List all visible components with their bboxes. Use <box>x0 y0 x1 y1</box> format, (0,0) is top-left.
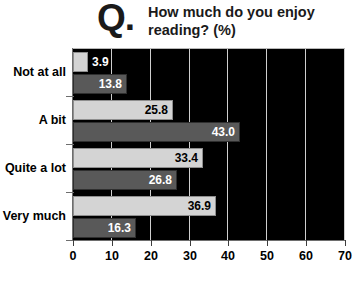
page-title-line-1: How much do you enjoy <box>148 4 315 20</box>
bar-value-label: 36.9 <box>188 199 211 213</box>
x-axis-tick <box>345 240 346 246</box>
page-title-line-2: reading? (%) <box>148 21 363 39</box>
category-axis-tick <box>66 192 74 193</box>
page-title: How much do you enjoy reading? (%) <box>148 3 363 39</box>
x-axis-tick <box>112 240 113 246</box>
category-label: Not at all <box>0 65 66 79</box>
bar-value-label: 13.8 <box>99 77 122 91</box>
category-label: A bit <box>0 113 66 127</box>
x-axis-tick-label: 50 <box>247 249 287 263</box>
x-axis-tick <box>151 240 152 246</box>
x-axis-tick-label: 60 <box>286 249 326 263</box>
bar-value-label: 43.0 <box>212 125 235 139</box>
x-axis-tick-label: 30 <box>170 249 210 263</box>
bar-series-1-0[interactable]: 3.9 <box>73 52 88 72</box>
chart-header: Q. How much do you enjoy reading? (%) <box>0 0 363 46</box>
bar-series-1-1[interactable]: 25.8 <box>73 100 173 120</box>
x-axis-tick-label: 70 <box>325 249 363 263</box>
category-axis-tick <box>66 96 74 97</box>
bar-value-label: 33.4 <box>175 151 198 165</box>
bar-series-1-3[interactable]: 36.9 <box>73 196 216 216</box>
x-axis-tick-label: 20 <box>131 249 171 263</box>
gridline <box>266 49 267 240</box>
gridline <box>227 49 228 240</box>
bar-value-label: 16.3 <box>108 221 131 235</box>
category-axis-tick <box>66 144 74 145</box>
bar-series-2-0[interactable]: 13.8 <box>73 74 127 94</box>
bar-value-label: 3.9 <box>92 55 109 69</box>
x-axis-tick <box>228 240 229 246</box>
category-label: Very much <box>0 209 66 223</box>
x-axis-tick <box>190 240 191 246</box>
bar-series-1-2[interactable]: 33.4 <box>73 148 203 168</box>
x-axis-tick <box>73 240 74 246</box>
value-axis-line <box>66 240 346 241</box>
x-axis-tick <box>267 240 268 246</box>
x-axis-tick-label: 40 <box>208 249 248 263</box>
gridline <box>305 49 306 240</box>
x-axis-tick <box>306 240 307 246</box>
bar-value-label: 25.8 <box>145 103 168 117</box>
bar-series-2-3[interactable]: 16.3 <box>73 218 136 238</box>
plot-area: 3.913.825.843.033.426.836.916.3 <box>73 48 345 240</box>
bar-chart: 3.913.825.843.033.426.836.916.3 01020304… <box>0 46 363 285</box>
bar-value-label: 26.8 <box>149 173 172 187</box>
x-axis-tick-label: 10 <box>92 249 132 263</box>
question-mark-symbol: Q. <box>97 0 134 38</box>
category-label: Quite a lot <box>0 161 66 175</box>
gridline <box>344 49 345 240</box>
bar-series-2-1[interactable]: 43.0 <box>73 122 240 142</box>
x-axis-tick-label: 0 <box>53 249 93 263</box>
bar-series-2-2[interactable]: 26.8 <box>73 170 177 190</box>
